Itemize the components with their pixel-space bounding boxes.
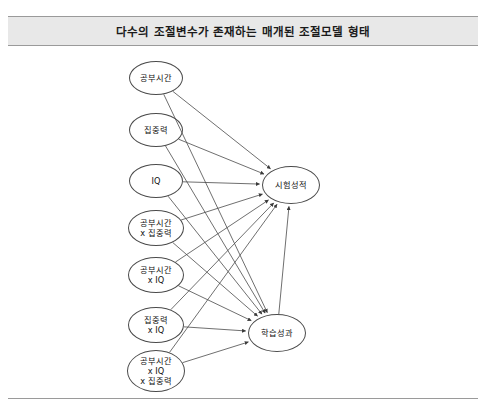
node-label-study-time: 공부시간 — [140, 73, 172, 83]
edge-concentration-to-exam-score — [179, 139, 264, 174]
figure-bottom-rule — [8, 398, 478, 399]
diagram-canvas: 공부시간집중력IQ공부시간 x 집중력공부시간 x IQ집중력 x IQ공부시간… — [0, 46, 495, 398]
node-label-study-x-conc: 공부시간 x 집중력 — [140, 218, 172, 238]
node-study-x-conc: 공부시간 x 집중력 — [128, 210, 184, 246]
node-label-learning-outcome: 학습성과 — [261, 328, 293, 338]
figure-header-band: 다수의 조절변수가 존재하는 매개된 조절모델 형태 — [8, 16, 478, 46]
node-label-study-x-iq-x-conc: 공부시간 x IQ x 집중력 — [140, 356, 172, 386]
node-iq: IQ — [129, 164, 183, 198]
node-concentration: 집중력 — [129, 113, 183, 147]
edge-learning-outcome-to-exam-score — [279, 206, 289, 314]
node-exam-score: 시험성적 — [262, 166, 320, 204]
node-learning-outcome: 학습성과 — [248, 314, 306, 352]
edge-study-x-iq-x-conc-to-learning-outcome — [183, 342, 249, 363]
node-study-x-iq-x-conc: 공부시간 x IQ x 집중력 — [127, 350, 185, 392]
node-label-study-x-iq: 공부시간 x IQ — [140, 265, 172, 285]
edge-study-x-iq-to-exam-score — [175, 200, 268, 262]
edge-layer — [0, 46, 495, 398]
node-label-concentration: 집중력 — [144, 125, 168, 135]
edge-conc-x-iq-to-learning-outcome — [184, 327, 246, 331]
node-label-iq: IQ — [152, 176, 161, 186]
node-study-time: 공부시간 — [129, 61, 183, 95]
edge-iq-to-exam-score — [183, 182, 260, 184]
figure-title: 다수의 조절변수가 존재하는 매개된 조절모델 형태 — [116, 23, 370, 39]
node-label-exam-score: 시험성적 — [275, 180, 307, 190]
node-conc-x-iq: 집중력 x IQ — [128, 307, 184, 343]
node-label-conc-x-iq: 집중력 x IQ — [144, 315, 168, 335]
figure-container: 다수의 조절변수가 존재하는 매개된 조절모델 형태 공부시간집중력IQ공부시간… — [0, 0, 495, 419]
node-study-x-iq: 공부시간 x IQ — [128, 257, 184, 293]
edge-study-x-iq-to-learning-outcome — [178, 286, 251, 321]
